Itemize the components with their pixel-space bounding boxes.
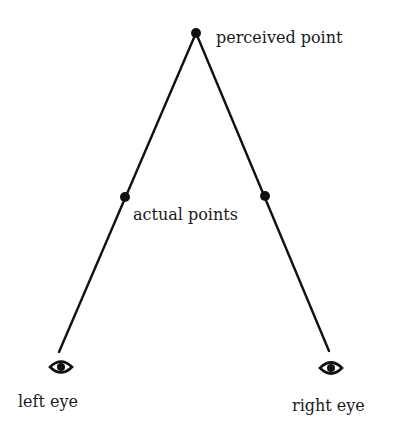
perceived-point-dot bbox=[191, 28, 201, 38]
left-eye-icon bbox=[50, 362, 72, 373]
left-eye-label: left eye bbox=[18, 394, 78, 410]
right-eye-label: right eye bbox=[292, 398, 365, 414]
left-sight-line bbox=[59, 33, 196, 352]
diagram-canvas: perceived point actual points left eye r… bbox=[0, 0, 393, 441]
actual-point-right-dot bbox=[260, 191, 270, 201]
actual-points-label: actual points bbox=[133, 207, 238, 223]
actual-point-left-dot bbox=[120, 192, 130, 202]
perceived-point-label: perceived point bbox=[216, 30, 342, 46]
right-eye-icon bbox=[320, 363, 342, 374]
